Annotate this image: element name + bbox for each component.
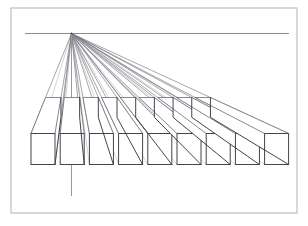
perspective-drawing-canvas — [0, 0, 308, 226]
vanishing-point-marker — [70, 32, 72, 34]
cube-front-face — [31, 134, 55, 165]
cube-front-face — [265, 134, 289, 165]
cube — [60, 98, 84, 165]
perspective-drawing-svg — [0, 0, 308, 226]
cube-front-face — [119, 134, 143, 165]
cube-front-face — [177, 134, 201, 165]
cube-front-face — [89, 134, 113, 165]
cube-front-face — [60, 134, 84, 165]
